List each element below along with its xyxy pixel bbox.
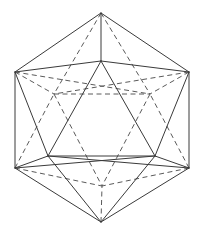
edge-bottomapex-to-back-bottom <box>101 186 102 222</box>
edge-lowerright-to-back-bottom <box>102 168 189 186</box>
edge-front-tri-right <box>101 61 155 156</box>
edge-back-tri-right <box>102 94 150 186</box>
edge-lowerright-to-back-right <box>150 94 189 168</box>
edge-upperright-to-back-left <box>54 72 189 94</box>
edge-bottomapex-to-front-right <box>101 156 155 222</box>
edge-lowerright-to-front-left <box>48 156 189 168</box>
dashed-edge-group <box>15 13 189 222</box>
edge-outer-hex-bottom-right <box>101 168 189 222</box>
figure-container <box>0 0 203 236</box>
edge-upperleft-to-back-right <box>15 72 150 94</box>
edge-bottomapex-to-front-left <box>48 156 101 222</box>
edge-outer-hex-bottom-left <box>15 168 101 222</box>
edge-lowerleft-to-front-right <box>15 156 155 168</box>
icosahedron-wireframe-diagram <box>0 0 203 236</box>
solid-edge-group <box>15 13 189 222</box>
edge-front-tri-left <box>48 61 101 156</box>
edge-lowerleft-to-back-bottom <box>15 168 102 186</box>
